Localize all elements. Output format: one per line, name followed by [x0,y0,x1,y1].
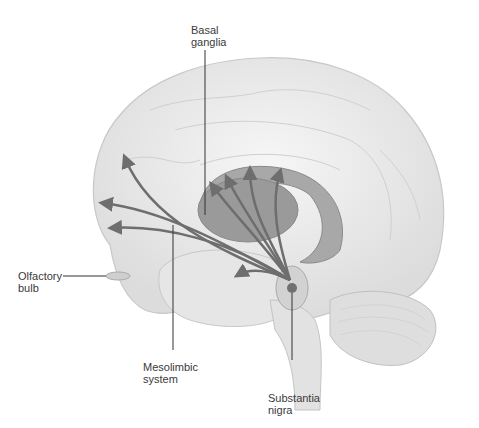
substantia-nigra-dot [287,283,297,293]
brain-diagram [0,0,479,428]
label-olfactory-bulb: Olfactory bulb [18,270,62,294]
cerebellum [330,291,436,365]
label-mesolimbic-system: Mesolimbic system [143,361,198,385]
label-basal-ganglia: Basal ganglia [191,24,226,48]
olfactory-bulb [106,272,130,280]
label-substantia-nigra: Substantia nigra [268,392,320,416]
